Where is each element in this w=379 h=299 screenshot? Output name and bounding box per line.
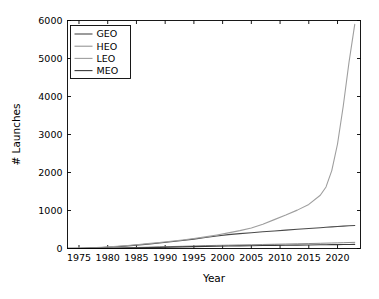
x-tick-label: 1980 [96,252,120,263]
x-tick-label: 2010 [268,252,292,263]
y-tick-label: 1000 [38,205,62,216]
y-tick-label: 0 [56,243,62,254]
chart-figure: 1975198019851990199520002005201020152020… [0,0,379,299]
x-tick-label: 2005 [239,252,263,263]
x-tick-label: 1985 [124,252,148,263]
launches-line-chart: 1975198019851990199520002005201020152020… [0,0,379,299]
y-tick-labels: 0100020003000400050006000 [38,15,62,254]
y-tick-label: 6000 [38,15,62,26]
y-axis-title: # Launches [10,103,22,165]
y-tick-label: 3000 [38,129,62,140]
legend-label-leo: LEO [97,53,116,64]
chart-legend[interactable]: GEOHEOLEOMEO [71,26,131,79]
x-tick-label: 1975 [67,252,91,263]
y-tick-label: 4000 [38,91,62,102]
x-axis-title: Year [202,272,226,284]
legend-label-heo: HEO [97,41,118,52]
x-tick-label: 2020 [325,252,349,263]
x-tick-labels: 1975198019851990199520002005201020152020 [67,252,350,263]
x-tick-label: 2000 [211,252,235,263]
legend-label-meo: MEO [97,65,119,76]
y-tick-label: 5000 [38,53,62,64]
legend-label-geo: GEO [97,28,118,39]
x-tick-label: 1995 [182,252,206,263]
x-tick-label: 1990 [153,252,177,263]
x-tick-label: 2015 [297,252,321,263]
y-tick-label: 2000 [38,167,62,178]
